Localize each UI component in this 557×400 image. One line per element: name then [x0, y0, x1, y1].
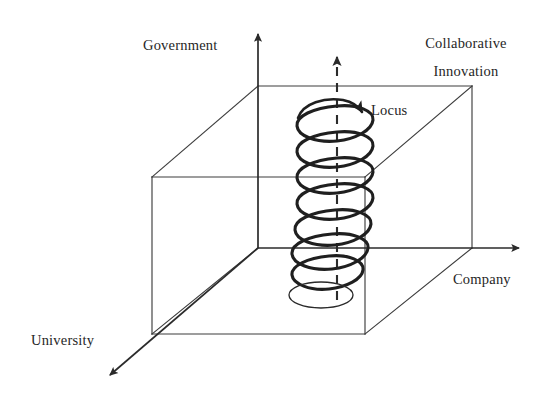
annotation-label-locus: Locus [371, 100, 407, 120]
corner-label-line-collaborative: Collaborative [406, 33, 526, 53]
locus-arrow-group [298, 99, 362, 118]
corner-label-collaborative-innovation: Collaborative Innovation [406, 33, 526, 81]
helix-turn-2 [297, 132, 373, 168]
locus-helix [292, 106, 373, 290]
helix-base-ellipse [289, 282, 353, 308]
locus-curved-arrow [298, 99, 362, 118]
axis-label-company: Company [453, 269, 511, 289]
cube-edge-top-left-diagonal [152, 86, 258, 177]
helix-turn-3 [297, 158, 373, 194]
axis-label-government: Government [143, 35, 217, 55]
corner-label-line-innovation: Innovation [406, 61, 526, 81]
university-axis-line [110, 248, 258, 375]
figure-root: Government Collaborative Innovation Univ… [0, 0, 557, 400]
axis-group [110, 34, 519, 375]
cube-edge-bottom-right-diagonal [365, 248, 472, 334]
axis-label-university: University [31, 330, 94, 350]
